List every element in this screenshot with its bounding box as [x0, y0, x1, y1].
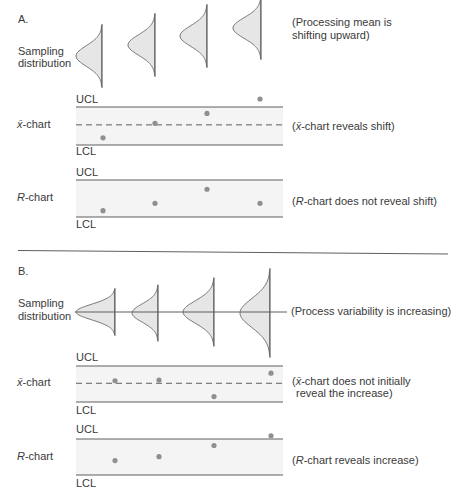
sample-point	[152, 121, 157, 126]
sample-point	[257, 96, 262, 101]
r-ucl-label-b: UCL	[76, 423, 98, 436]
xbar-ucl-label-b: UCL	[76, 351, 98, 364]
xbar-chart-label-a: x̄-chart	[17, 118, 51, 131]
xbar-ucl-label-a: UCL	[76, 93, 98, 106]
xbar-lcl-label-b: LCL	[76, 404, 96, 417]
panel-label-b: B.	[18, 265, 28, 278]
sampling-distribution-curve	[180, 5, 207, 67]
note-text: -chart reveals shift)	[301, 120, 395, 132]
r-chart-label-b: R-chart	[17, 450, 53, 463]
chart-suffix: -chart	[25, 191, 53, 203]
sample-point	[268, 433, 273, 438]
sample-point	[156, 377, 161, 382]
control-band	[76, 180, 283, 217]
sampling-distribution-curve	[128, 14, 155, 76]
chart-suffix: -chart	[23, 376, 51, 388]
sample-point	[152, 201, 157, 206]
r-symbol: R	[17, 450, 25, 462]
r-symbol: R	[296, 195, 304, 207]
control-chart-figure: A. Sampling distribution (Processing mea…	[0, 0, 473, 490]
sampling-note-b: (Process variability is increasing)	[291, 305, 451, 318]
sample-point	[204, 111, 209, 116]
sampling-note-a-line2: shifting upward)	[292, 29, 370, 42]
sample-point	[257, 201, 262, 206]
sampling-distribution-curve	[132, 285, 158, 340]
r-note-a: (R-chart does not reveal shift)	[292, 195, 437, 208]
control-band	[76, 439, 283, 475]
panel-label-a: A.	[18, 13, 28, 26]
note-text: -chart does not initially	[301, 375, 410, 387]
sample-point	[100, 208, 105, 213]
xbar-note-a: (x̄-chart reveals shift)	[292, 120, 395, 133]
r-note-b: (R-chart reveals increase)	[292, 454, 419, 467]
sample-point	[112, 458, 117, 463]
sampling-distribution-curve	[240, 270, 270, 357]
xbar-chart-a	[76, 96, 286, 145]
r-symbol: R	[17, 191, 25, 203]
note-text: -chart reveals increase)	[304, 454, 419, 466]
r-lcl-label-a: LCL	[76, 218, 96, 231]
r-chart-b	[76, 433, 283, 475]
xbar-lcl-label-a: LCL	[76, 145, 96, 158]
sample-point	[211, 443, 216, 448]
panel-separator	[18, 251, 448, 255]
sampling-distributions-b	[76, 268, 270, 358]
sample-point	[112, 378, 117, 383]
r-chart-a	[76, 180, 283, 217]
sampling-distribution-curve	[233, 0, 261, 59]
sample-point	[100, 135, 105, 140]
chart-suffix: -chart	[25, 450, 53, 462]
sample-point	[268, 371, 273, 376]
sampling-label-a-line2: distribution	[18, 57, 71, 70]
control-band	[76, 366, 283, 402]
figure-graphics	[0, 0, 473, 490]
xbar-note-b-line2: reveal the increase)	[296, 387, 393, 400]
xbar-chart-label-b: x̄-chart	[17, 376, 51, 389]
xbar-chart-b	[76, 366, 286, 402]
r-lcl-label-b: LCL	[76, 477, 96, 490]
sample-point	[204, 187, 209, 192]
control-band	[76, 107, 283, 145]
chart-suffix: -chart	[23, 118, 51, 130]
r-ucl-label-a: UCL	[76, 166, 98, 179]
r-symbol: R	[296, 454, 304, 466]
sampling-label-b-line1: Sampling	[18, 297, 64, 310]
sample-point	[211, 394, 216, 399]
r-chart-label-a: R-chart	[17, 191, 53, 204]
sampling-note-a-line1: (Processing mean is	[292, 16, 392, 29]
note-text: -chart does not reveal shift)	[304, 195, 437, 207]
sampling-label-b-line2: distribution	[18, 310, 71, 323]
sampling-distribution-curve	[76, 25, 102, 87]
sampling-distributions-a	[76, 0, 261, 88]
sample-point	[156, 454, 161, 459]
